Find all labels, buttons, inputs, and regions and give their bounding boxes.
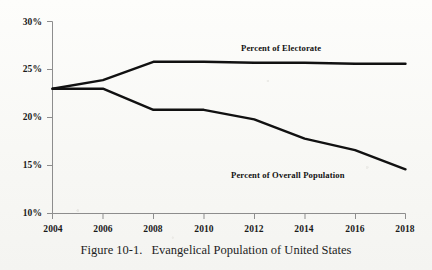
figure-caption-title: Evangelical Population of United States: [151, 243, 351, 257]
series-line-percent-of-overall-population: [53, 89, 406, 170]
plot-area: [0, 0, 432, 270]
series-label-percent-of-electorate: Percent of Electorate: [241, 43, 321, 53]
figure-caption: Figure 10-1.Evangelical Population of Un…: [0, 243, 432, 258]
figure-evangelical-population: 30% 25% 20% 15% 10% 2004 2006 2008 2010 …: [0, 0, 432, 270]
series-line-percent-of-electorate: [53, 62, 406, 89]
figure-caption-number: Figure 10-1.: [81, 243, 143, 257]
series-label-percent-of-overall-population: Percent of Overall Population: [231, 170, 345, 180]
